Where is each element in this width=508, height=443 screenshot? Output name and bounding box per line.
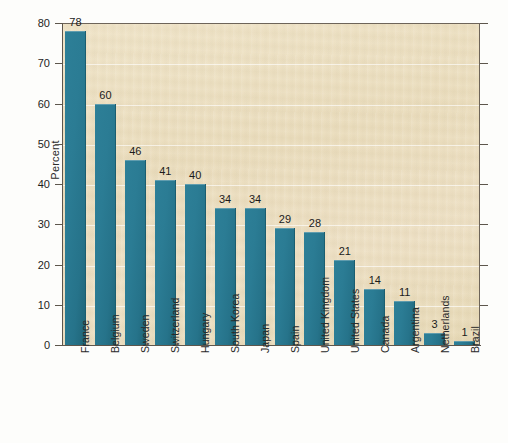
x-axis-label: United States bbox=[349, 289, 361, 353]
right-axis-tick bbox=[480, 265, 488, 266]
right-axis-tick bbox=[480, 144, 488, 145]
right-axis-tick bbox=[480, 63, 488, 64]
y-axis-tick-label: 20 bbox=[14, 260, 50, 271]
right-axis-tick bbox=[480, 184, 488, 185]
y-axis-tick bbox=[55, 144, 62, 145]
right-axis-tick bbox=[480, 305, 488, 306]
x-axis-label: Netherlands bbox=[439, 295, 451, 353]
y-axis-tick-label: 60 bbox=[14, 99, 50, 110]
x-axis-label: South Korea bbox=[229, 294, 241, 353]
bar-slot bbox=[125, 23, 146, 345]
y-axis-tick bbox=[55, 184, 62, 185]
y-axis-tick-label: 80 bbox=[14, 18, 50, 29]
x-axis-label: Belgium bbox=[109, 314, 121, 353]
y-axis-tick-label: 50 bbox=[14, 139, 50, 150]
right-axis-tick bbox=[480, 23, 488, 24]
y-axis-tick bbox=[55, 224, 62, 225]
x-axis-label: Sweden bbox=[139, 314, 151, 353]
bar-chart: Percent 01020304050607080 78604641403434… bbox=[0, 0, 508, 443]
bar-value-label: 34 bbox=[235, 194, 275, 205]
bar-slot bbox=[454, 23, 475, 345]
bar-value-label: 14 bbox=[355, 275, 395, 286]
y-axis-tick bbox=[55, 305, 62, 306]
bar-slot bbox=[364, 23, 385, 345]
bar-value-label: 46 bbox=[115, 146, 155, 157]
bar-value-label: 78 bbox=[55, 17, 95, 28]
bar-value-label: 21 bbox=[325, 246, 365, 257]
x-axis-label: United Kingdom bbox=[319, 277, 331, 353]
y-axis-tick bbox=[55, 104, 62, 105]
bar-value-label: 28 bbox=[295, 218, 335, 229]
x-axis-label: France bbox=[79, 320, 91, 353]
bar[interactable] bbox=[95, 104, 116, 346]
bars-layer: 78604641403434292821141131 bbox=[62, 23, 481, 345]
x-axis-labels: FranceBelgiumSwedenSwitzerlandHungarySou… bbox=[62, 350, 481, 440]
y-axis-title: Percent bbox=[49, 115, 61, 205]
right-axis-tick bbox=[480, 224, 488, 225]
bar-slot bbox=[65, 23, 86, 345]
x-axis-label: Japan bbox=[259, 324, 271, 353]
right-axis-tick bbox=[480, 104, 488, 105]
x-axis-label: Canada bbox=[379, 316, 391, 353]
bar-slot bbox=[95, 23, 116, 345]
y-axis-tick bbox=[55, 63, 62, 64]
x-axis-label: Switzerland bbox=[169, 298, 181, 353]
bar-slot bbox=[275, 23, 296, 345]
y-axis-tick-label: 40 bbox=[14, 179, 50, 190]
bar-slot bbox=[245, 23, 266, 345]
y-axis-tick-label: 0 bbox=[14, 340, 50, 351]
y-axis-tick bbox=[55, 265, 62, 266]
bar-value-label: 60 bbox=[85, 90, 125, 101]
x-axis-label: Argentina bbox=[409, 307, 421, 353]
y-axis-tick-label: 70 bbox=[14, 58, 50, 69]
x-axis-label: Hungary bbox=[199, 313, 211, 353]
y-axis-tick bbox=[55, 345, 62, 346]
y-axis-tick-label: 10 bbox=[14, 300, 50, 311]
x-axis-label: Spain bbox=[289, 326, 301, 353]
y-axis-tick-label: 30 bbox=[14, 219, 50, 230]
bar-value-label: 40 bbox=[175, 170, 215, 181]
x-axis-label: Brazil bbox=[469, 326, 481, 353]
bar[interactable] bbox=[65, 31, 86, 345]
bar-slot bbox=[185, 23, 206, 345]
bar-value-label: 11 bbox=[385, 287, 425, 298]
